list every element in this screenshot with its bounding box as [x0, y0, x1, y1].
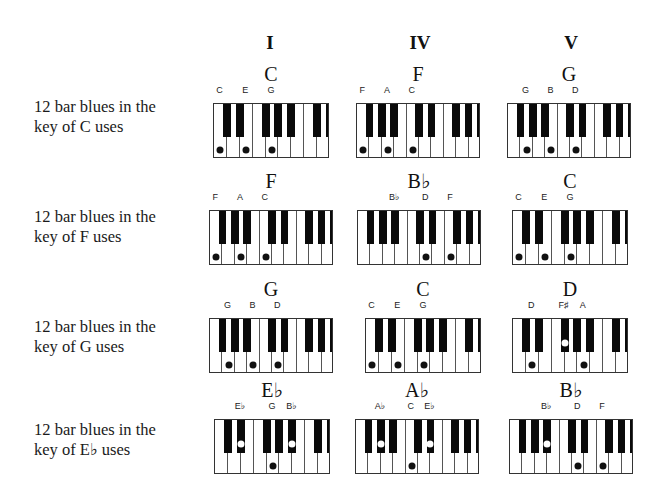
piano-keyboard — [509, 419, 633, 474]
note-label: B♭ — [541, 401, 551, 411]
black-key — [573, 211, 581, 244]
note-dot-icon — [568, 254, 575, 261]
black-key — [377, 420, 385, 453]
black-key — [543, 420, 551, 453]
black-key — [275, 420, 283, 453]
black-key — [388, 319, 396, 352]
note-dot-icon — [600, 463, 607, 470]
note-label: F — [212, 192, 218, 202]
black-key — [573, 319, 581, 352]
note-label: A — [580, 300, 586, 310]
black-key — [426, 319, 434, 352]
black-key — [605, 420, 613, 453]
note-dot-icon — [529, 362, 536, 369]
black-key — [428, 104, 436, 137]
note-label: C — [262, 192, 269, 202]
note-label: E♭ — [235, 401, 245, 411]
note-label: C — [515, 192, 522, 202]
note-label: E — [242, 85, 248, 95]
note-label: B — [249, 300, 255, 310]
note-dot-icon — [427, 441, 434, 448]
note-labels: A♭CE♭ — [355, 401, 479, 413]
black-key — [224, 420, 232, 453]
black-key — [519, 420, 527, 453]
note-dot-icon — [395, 362, 402, 369]
black-key — [451, 420, 459, 453]
chord-diagram: B♭B♭DF — [357, 210, 481, 265]
note-dot-icon — [516, 254, 523, 261]
black-key — [630, 420, 633, 453]
black-key — [453, 211, 461, 244]
black-key — [313, 104, 321, 137]
black-key — [439, 319, 447, 352]
note-dot-icon — [580, 362, 587, 369]
black-key — [466, 211, 474, 244]
black-key — [268, 211, 276, 244]
chord-diagram: E♭E♭GB♭ — [214, 419, 330, 474]
black-key — [535, 211, 543, 244]
note-dot-icon — [237, 441, 244, 448]
note-label: F♯ — [559, 300, 569, 310]
piano-keyboard — [365, 318, 481, 373]
black-key — [330, 319, 333, 352]
note-label: C — [216, 85, 223, 95]
note-label: A♭ — [375, 401, 385, 411]
black-key — [318, 211, 326, 244]
black-key — [522, 319, 530, 352]
note-label: D — [574, 401, 581, 411]
piano-keyboard — [209, 210, 333, 265]
piano-keyboard — [213, 103, 329, 158]
chord-name: A♭ — [355, 379, 479, 401]
chord-name: F — [209, 170, 333, 192]
black-key — [561, 319, 569, 352]
note-label: C — [368, 300, 375, 310]
note-label: F — [599, 401, 605, 411]
black-key — [625, 319, 628, 352]
note-dot-icon — [238, 254, 245, 261]
note-labels: CEG — [365, 300, 481, 312]
black-key — [477, 104, 480, 137]
black-key — [287, 104, 295, 137]
note-label: G — [419, 300, 426, 310]
chord-name: C — [213, 63, 329, 85]
piano-keyboard — [507, 103, 631, 158]
note-dot-icon — [275, 362, 282, 369]
note-labels: B♭DF — [509, 401, 633, 413]
note-dot-icon — [225, 362, 232, 369]
note-label: C — [408, 401, 415, 411]
black-key — [389, 420, 397, 453]
chord-diagram: CCEG — [365, 318, 481, 373]
black-key — [452, 104, 460, 137]
note-label: D — [528, 300, 535, 310]
chord-diagram: CCEG — [213, 103, 329, 158]
row-label-key-eb: 12 bar blues in the key of E♭ uses — [34, 420, 156, 460]
note-dot-icon — [573, 147, 580, 154]
black-key — [579, 104, 587, 137]
note-label: D — [274, 300, 281, 310]
chord-diagram: B♭B♭DF — [509, 419, 633, 474]
black-key — [262, 104, 270, 137]
black-key — [314, 420, 322, 453]
note-dot-icon — [377, 441, 384, 448]
black-key — [531, 420, 539, 453]
black-key — [414, 420, 422, 453]
note-label: B — [547, 85, 553, 95]
chord-diagram: GGBD — [209, 318, 333, 373]
black-key — [243, 211, 251, 244]
note-labels: FAC — [209, 192, 333, 204]
note-labels: CEG — [512, 192, 628, 204]
black-key — [464, 420, 472, 453]
note-label: A — [237, 192, 243, 202]
chord-name: E♭ — [214, 379, 330, 401]
black-key — [366, 104, 374, 137]
note-dot-icon — [217, 147, 224, 154]
chord-name: D — [512, 278, 628, 300]
black-key — [274, 104, 282, 137]
piano-keyboard — [356, 103, 480, 158]
black-key — [522, 211, 530, 244]
chord-name: F — [356, 63, 480, 85]
black-key — [465, 319, 473, 352]
note-dot-icon — [369, 362, 376, 369]
chord-name: B♭ — [509, 379, 633, 401]
black-key — [231, 319, 239, 352]
